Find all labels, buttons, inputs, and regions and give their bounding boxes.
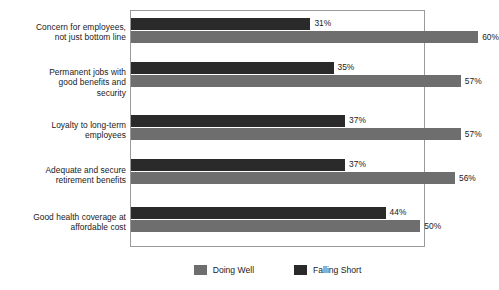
bar-doing-well-3 xyxy=(131,172,455,184)
bar-doing-well-0 xyxy=(131,31,478,43)
bar-value-doing-well-0: 60% xyxy=(482,33,499,42)
chart-legend: Doing Well Falling Short xyxy=(130,262,425,278)
bar-falling-short-2 xyxy=(131,115,345,127)
bar-value-doing-well-1: 57% xyxy=(465,77,482,86)
category-label-0-line-1: not just bottom line xyxy=(0,32,126,42)
bar-falling-short-3 xyxy=(131,159,345,171)
legend-item-doing-well: Doing Well xyxy=(194,265,254,275)
category-label-1: Permanent jobs with good benefits and se… xyxy=(0,67,126,98)
category-label-4-line-1: affordable cost xyxy=(0,222,126,232)
category-label-2-line-1: employees xyxy=(0,130,126,140)
category-label-3-line-1: retirement benefits xyxy=(0,175,126,185)
category-label-4-line-0: Good health coverage at xyxy=(0,212,126,222)
category-label-1-line-0: Permanent jobs with xyxy=(0,67,126,77)
legend-item-falling-short: Falling Short xyxy=(294,265,361,275)
category-label-1-line-2: security xyxy=(0,88,126,98)
category-label-column: Concern for employees, not just bottom l… xyxy=(0,10,126,247)
bar-falling-short-4 xyxy=(131,207,386,219)
category-label-0-line-0: Concern for employees, xyxy=(0,22,126,32)
bar-falling-short-0 xyxy=(131,18,310,30)
category-label-2: Loyalty to long-term employees xyxy=(0,120,126,141)
bar-value-falling-short-3: 37% xyxy=(349,160,366,169)
bar-value-doing-well-3: 56% xyxy=(459,174,476,183)
category-label-1-line-1: good benefits and xyxy=(0,77,126,87)
category-label-0: Concern for employees, not just bottom l… xyxy=(0,22,126,43)
plot-inner: 31%60%35%57%37%57%37%56%44%50% xyxy=(131,11,424,246)
bar-value-falling-short-4: 44% xyxy=(390,208,407,217)
bar-value-doing-well-2: 57% xyxy=(465,130,482,139)
legend-swatch-falling-short-icon xyxy=(294,265,307,275)
category-label-3: Adequate and secure retirement benefits xyxy=(0,165,126,186)
category-label-2-line-0: Loyalty to long-term xyxy=(0,120,126,130)
bar-doing-well-2 xyxy=(131,128,461,140)
bar-value-falling-short-1: 35% xyxy=(338,63,355,72)
bar-doing-well-4 xyxy=(131,220,420,232)
category-label-3-line-0: Adequate and secure xyxy=(0,165,126,175)
bar-falling-short-1 xyxy=(131,62,334,74)
legend-label-doing-well: Doing Well xyxy=(213,265,254,275)
bar-value-falling-short-0: 31% xyxy=(314,19,331,28)
category-label-4: Good health coverage at affordable cost xyxy=(0,212,126,233)
legend-label-falling-short: Falling Short xyxy=(313,265,361,275)
bar-doing-well-1 xyxy=(131,75,461,87)
plot-area: 31%60%35%57%37%57%37%56%44%50% xyxy=(130,10,425,247)
legend-swatch-doing-well-icon xyxy=(194,265,207,275)
bar-value-falling-short-2: 37% xyxy=(349,116,366,125)
bar-value-doing-well-4: 50% xyxy=(424,222,441,231)
